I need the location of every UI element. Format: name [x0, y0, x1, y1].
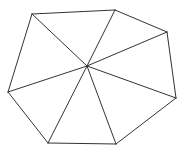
polygon-edge [8, 92, 48, 143]
polygon-edge [48, 143, 116, 144]
spoke-edge [87, 32, 167, 66]
polygon-edge [115, 10, 167, 32]
spoke-edge [32, 14, 87, 66]
polygon-edge [167, 32, 176, 98]
spoke-edge [87, 10, 115, 66]
spoke-edge [87, 66, 176, 98]
polygon-edge [8, 14, 32, 92]
polygon-edge [116, 98, 176, 144]
polygon-edge [32, 10, 115, 14]
polygon-outline [8, 10, 176, 144]
spoke-edge [48, 66, 87, 143]
triangulated-polygon-diagram [0, 0, 184, 151]
spoke-edge [87, 66, 116, 144]
spoke-edge [8, 66, 87, 92]
